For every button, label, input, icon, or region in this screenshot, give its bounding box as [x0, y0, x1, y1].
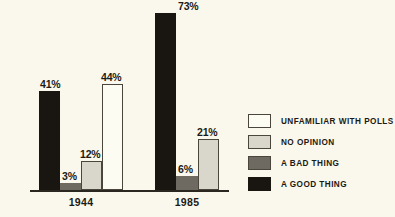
legend-item-unfamiliar-with-polls[interactable]: UNFAMILIAR WITH POLLS [248, 114, 394, 128]
legend-item-no-opinion[interactable]: NO OPINION [248, 135, 335, 149]
bar-1944-a-good-thing[interactable] [39, 91, 60, 190]
legend-swatch-icon-unfamiliar-with-polls [248, 114, 271, 128]
bar-1985-no-opinion[interactable] [198, 139, 219, 190]
legend-item-a-bad-thing[interactable]: A BAD THING [248, 156, 339, 170]
legend-item-a-good-thing[interactable]: A GOOD THING [248, 177, 347, 191]
bar-label-1944-a-good-thing: 41% [40, 78, 60, 90]
legend-swatch-icon-a-good-thing [248, 177, 271, 191]
legend-swatch-icon-no-opinion [248, 135, 271, 149]
bar-1944-a-bad-thing[interactable] [60, 183, 81, 190]
bar-label-1944-unfamiliar-with-polls: 44% [101, 71, 121, 83]
bar-label-1985-a-bad-thing: 6% [178, 163, 193, 175]
bar-1985-a-bad-thing[interactable] [176, 176, 198, 191]
plot-area: 41% 3% 12% 44% 73% 6% 21% 1944 1985 [0, 0, 250, 217]
bar-label-1985-no-opinion: 21% [197, 126, 217, 138]
legend-label-no-opinion: NO OPINION [281, 138, 335, 147]
bar-chart: 41% 3% 12% 44% 73% 6% 21% 1944 1985 UNFA… [0, 0, 395, 217]
bar-1944-unfamiliar-with-polls[interactable] [102, 84, 123, 191]
bar-label-1944-a-bad-thing: 3% [62, 170, 77, 182]
legend-label-a-good-thing: A GOOD THING [281, 180, 347, 189]
bar-label-1944-no-opinion: 12% [80, 148, 100, 160]
bar-1985-a-good-thing[interactable] [155, 13, 176, 190]
x-axis-label-1944: 1944 [57, 196, 105, 208]
bar-label-1985-a-good-thing: 73% [178, 0, 198, 12]
legend-label-a-bad-thing: A BAD THING [281, 159, 339, 168]
legend-swatch-icon-a-bad-thing [248, 156, 271, 170]
x-axis-line [30, 190, 229, 192]
legend-label-unfamiliar-with-polls: UNFAMILIAR WITH POLLS [281, 117, 394, 126]
bar-1944-no-opinion[interactable] [81, 161, 102, 190]
x-axis-label-1985: 1985 [163, 196, 211, 208]
